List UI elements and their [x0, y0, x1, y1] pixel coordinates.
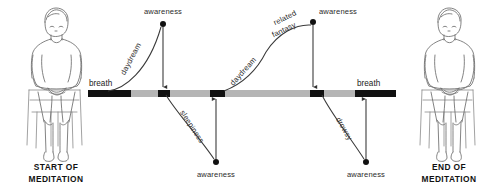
daydream-label-2: daydream	[228, 55, 258, 87]
diagram-canvas: breath breath awareness awareness awaren…	[0, 0, 499, 192]
caption-end-line2: MEDITATION	[422, 174, 477, 184]
meditation-timeline-diagram: breath breath awareness awareness awaren…	[0, 0, 499, 192]
awareness-dot-1	[160, 21, 166, 27]
caption-start-line2: MEDITATION	[29, 174, 84, 184]
awareness-label-bottom-left: awareness	[197, 170, 235, 179]
timeline-segment-breath-8	[355, 90, 396, 97]
breath-label-start: breath	[89, 79, 113, 88]
drowsy-label-1: drowsy	[334, 116, 354, 142]
awareness-dot-2	[213, 159, 219, 165]
timeline-segment-distraction-3	[170, 90, 210, 97]
awareness-label-top-right: awareness	[319, 7, 357, 16]
awareness-dot-3	[310, 19, 316, 25]
timeline-segment-breath-4	[210, 90, 225, 97]
breath-label-end: breath	[357, 79, 381, 88]
sleepiness-label-1: sleepiness	[178, 109, 206, 145]
seated-meditator-start-figure	[27, 8, 82, 161]
meditator-right-body	[424, 8, 474, 161]
timeline-segment-distraction-5	[225, 90, 310, 97]
seated-meditator-end-figure	[420, 8, 475, 161]
meditation-timeline-bar	[88, 90, 396, 97]
awareness-label-bottom-right: awareness	[347, 170, 385, 179]
meditator-left-body	[31, 8, 81, 161]
awareness-dot-4	[363, 159, 369, 165]
timeline-segment-breath-2	[158, 90, 170, 97]
caption-start-line1: START OF	[34, 162, 78, 172]
timeline-segment-distraction-1	[131, 90, 158, 97]
caption-end-line1: END OF	[432, 162, 466, 172]
awareness-label-top-left: awareness	[144, 7, 182, 16]
timeline-segment-distraction-7	[324, 90, 355, 97]
